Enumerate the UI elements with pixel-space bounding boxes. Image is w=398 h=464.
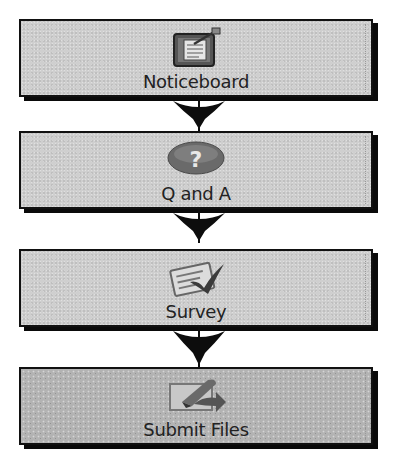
step-q-and-a[interactable]: ? Q and A [19, 131, 373, 209]
arrow-down-icon [171, 209, 227, 243]
question-mark-icon: ? [164, 138, 228, 180]
svg-text:?: ? [190, 147, 203, 172]
noticeboard-icon [164, 26, 228, 68]
step-label: Noticeboard [21, 71, 371, 92]
step-survey[interactable]: Survey [19, 249, 373, 327]
step-label: Survey [21, 301, 371, 322]
step-submit-files[interactable]: Submit Files [19, 367, 373, 445]
step-label: Q and A [21, 183, 371, 204]
arrow-down-icon [171, 97, 227, 131]
survey-checklist-icon [164, 256, 228, 298]
arrow-down-icon [171, 327, 227, 361]
submit-files-icon [164, 374, 228, 416]
step-noticeboard[interactable]: Noticeboard [19, 19, 373, 97]
step-label: Submit Files [21, 419, 371, 440]
